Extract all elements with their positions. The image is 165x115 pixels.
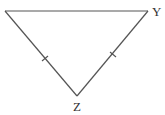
triangle-diagram: Y Z (0, 0, 165, 115)
vertex-label-z: Z (73, 99, 81, 114)
edge-left-z (5, 11, 77, 96)
vertex-label-y: Y (152, 4, 162, 19)
